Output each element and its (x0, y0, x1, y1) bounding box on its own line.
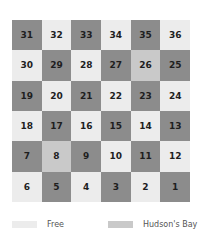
section-cell: 11 (131, 141, 161, 171)
section-cell: 22 (101, 81, 131, 111)
section-cell: 1 (160, 172, 190, 202)
legend-item-free: Free (12, 219, 64, 229)
section-cell: 20 (42, 81, 72, 111)
section-cell: 32 (42, 20, 72, 50)
section-cell: 24 (160, 81, 190, 111)
section-cell: 9 (71, 141, 101, 171)
section-cell: 26 (131, 50, 161, 80)
section-cell: 7 (12, 141, 42, 171)
free-swatch-icon (12, 221, 37, 228)
section-cell: 17 (42, 111, 72, 141)
section-cell: 25 (160, 50, 190, 80)
section-cell: 36 (160, 20, 190, 50)
section-cell: 23 (131, 81, 161, 111)
section-cell: 28 (71, 50, 101, 80)
township-section-grid: 3132333435363029282726251920212223241817… (12, 20, 190, 202)
legend: Free Hudson's Bay (0, 219, 198, 229)
section-cell: 10 (101, 141, 131, 171)
legend-label-free: Free (47, 220, 64, 229)
section-cell: 21 (71, 81, 101, 111)
legend-item-hudsons-bay: Hudson's Bay (108, 219, 197, 229)
section-cell: 31 (12, 20, 42, 50)
section-cell: 35 (131, 20, 161, 50)
section-cell: 4 (71, 172, 101, 202)
section-cell: 19 (12, 81, 42, 111)
section-cell: 3 (101, 172, 131, 202)
section-cell: 6 (12, 172, 42, 202)
legend-label-hudsons-bay: Hudson's Bay (143, 220, 197, 229)
section-cell: 12 (160, 141, 190, 171)
section-cell: 34 (101, 20, 131, 50)
hudsons-bay-swatch-icon (108, 221, 133, 228)
section-cell: 18 (12, 111, 42, 141)
section-cell: 5 (42, 172, 72, 202)
section-cell: 2 (131, 172, 161, 202)
section-cell: 13 (160, 111, 190, 141)
section-cell: 16 (71, 111, 101, 141)
section-cell: 33 (71, 20, 101, 50)
section-cell: 8 (42, 141, 72, 171)
section-cell: 29 (42, 50, 72, 80)
section-cell: 30 (12, 50, 42, 80)
section-cell: 15 (101, 111, 131, 141)
section-cell: 14 (131, 111, 161, 141)
section-cell: 27 (101, 50, 131, 80)
